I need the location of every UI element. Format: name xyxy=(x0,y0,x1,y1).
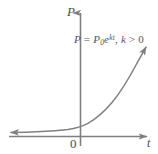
graph-canvas xyxy=(0,0,158,154)
equation-equals: = xyxy=(81,33,93,45)
vertical-axis-label: P xyxy=(67,5,75,18)
exponential-curve xyxy=(11,47,146,132)
origin-label: 0 xyxy=(70,137,77,150)
exponential-growth-figure: P t 0 P = P0ekt, k > 0 xyxy=(0,0,158,154)
equation-condition-operator: > xyxy=(126,33,138,45)
equation-condition-value: 0 xyxy=(138,33,144,45)
equation-lhs: P xyxy=(74,33,81,45)
equation-annotation: P = P0ekt, k > 0 xyxy=(74,34,144,47)
horizontal-axis-label: t xyxy=(147,137,150,149)
